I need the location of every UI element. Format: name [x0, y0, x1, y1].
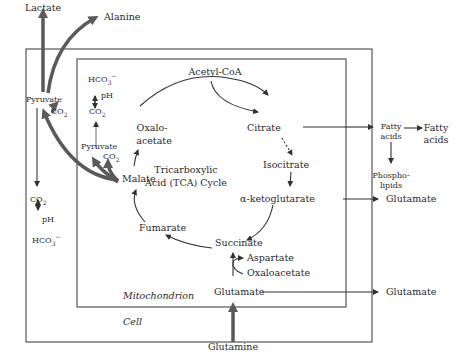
label-glutamate-out-2: Glutamate — [386, 286, 436, 297]
label-oxalo: Oxalo- — [137, 122, 168, 133]
label-cell: Cell — [123, 316, 142, 327]
label-aspartate: Aspartate — [247, 252, 294, 263]
label-succinate: Succinate — [215, 237, 263, 248]
label-lipids: lipids — [380, 181, 402, 191]
label-tca-line2: Acid (TCA) Cycle — [145, 177, 227, 188]
label-isocitrate: Isocitrate — [263, 159, 309, 170]
label-glutamate-mito: Glutamate — [214, 286, 264, 297]
label-glutamate-out-1: Glutamate — [386, 193, 436, 204]
label-tca-line1: Tricarboxylic — [154, 164, 217, 175]
label-acetyl-coa: Acetyl-CoA — [188, 66, 241, 77]
label-lactate: Lactate — [25, 2, 61, 13]
label-fumarate: Fumarate — [139, 222, 186, 233]
label-hco3-mito: HCO3− — [88, 75, 117, 85]
label-alpha-ketoglutarate: α-ketoglutarate — [240, 193, 315, 204]
cell-boundary — [26, 49, 372, 342]
label-ph-mito: pH — [101, 91, 113, 101]
label-mitochondrion: Mitochondrion — [123, 290, 194, 301]
label-fatty-acids-out-1: Fatty — [424, 122, 449, 133]
label-fatty-acids-cell-2: acids — [380, 132, 401, 142]
label-pyruvate-mito: Pyruvate — [81, 142, 117, 152]
label-co2-cell-top: CO2 — [51, 107, 68, 117]
label-co2-mito: CO2 — [89, 107, 106, 117]
label-oxaloacetate: Oxaloacetate — [247, 267, 310, 278]
label-pyruvate-cell: Pyruvate — [26, 95, 62, 105]
label-hco3-cell: HCO3− — [32, 236, 61, 246]
label-glutamine: Glutamine — [208, 341, 258, 352]
label-co2-cell: CO2 — [30, 195, 47, 205]
label-ph-cell: pH — [42, 215, 54, 225]
label-phospho: Phospho- — [372, 171, 409, 181]
label-fatty-acids-cell-1: Fatty — [381, 122, 402, 132]
label-citrate: Citrate — [247, 122, 281, 133]
label-fatty-acids-out-2: acids — [424, 134, 449, 145]
label-alanine: Alanine — [104, 11, 140, 22]
label-co2-mito-small: CO2 — [103, 152, 120, 162]
label-acetate: acetate — [136, 135, 172, 146]
